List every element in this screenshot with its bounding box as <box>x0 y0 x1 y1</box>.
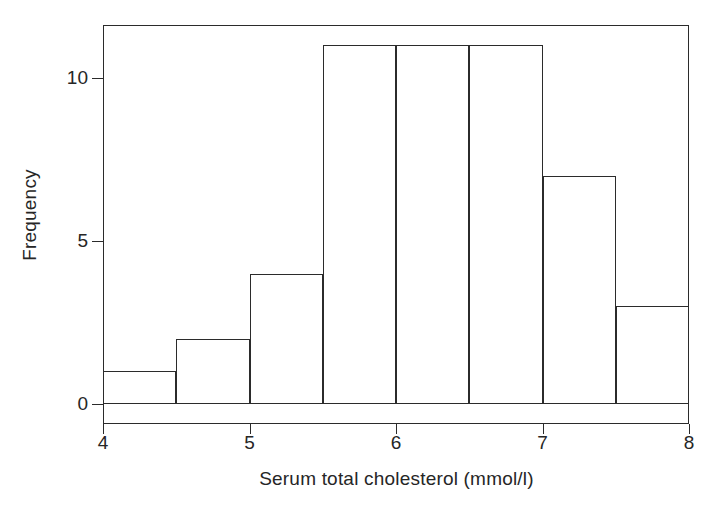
x-tick-label: 4 <box>83 432 123 454</box>
x-tick-label: 8 <box>669 432 709 454</box>
x-axis-title: Serum total cholesterol (mmol/l) <box>103 468 690 490</box>
x-tick-mark <box>250 424 251 434</box>
x-tick-mark <box>543 424 544 434</box>
x-tick-mark <box>689 424 690 434</box>
x-tick-mark <box>396 424 397 434</box>
x-tick-label: 7 <box>523 432 563 454</box>
x-axis-ticks: 45678 <box>0 0 725 522</box>
histogram-figure: 0510 45678 Frequency Serum total cholest… <box>0 0 725 522</box>
x-tick-label: 5 <box>230 432 270 454</box>
x-tick-label: 6 <box>376 432 416 454</box>
x-tick-mark <box>103 424 104 434</box>
